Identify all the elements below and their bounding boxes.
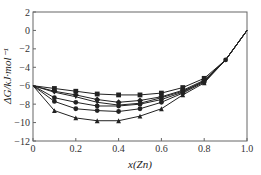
x-tick-label: 0.2 [70, 143, 83, 154]
y-tick-label: −2 [19, 43, 30, 54]
circle-marker [73, 106, 78, 111]
series-line [33, 30, 247, 102]
square-marker [116, 93, 121, 98]
y-tick-label: 2 [25, 7, 30, 18]
y-tick-label: −6 [19, 80, 30, 91]
gibbs-energy-chart: 20−2−4−6−8−10−12 00.20.40.60.81.0 x(Zn) … [0, 0, 261, 175]
y-axis-label: ΔG/kJ·mol⁻¹ [1, 48, 13, 105]
y-tick-label: −10 [14, 117, 30, 128]
x-tick-label: 0 [31, 143, 36, 154]
y-tick-label: −12 [14, 136, 30, 147]
circle-marker [159, 100, 164, 105]
y-tick-label: 0 [25, 25, 30, 36]
series-line [33, 30, 247, 95]
x-tick-label: 0.6 [155, 143, 168, 154]
square-marker [95, 92, 100, 97]
circle-marker [138, 106, 143, 111]
circle-marker [73, 100, 78, 105]
y-tick-label: −8 [19, 99, 30, 110]
x-tick-label: 0.4 [112, 143, 125, 154]
y-tick-label: −4 [19, 62, 30, 73]
series-square [33, 30, 247, 97]
circle-marker [116, 104, 121, 109]
circle-marker [95, 108, 100, 113]
data-series [33, 30, 247, 123]
square-marker [138, 93, 143, 98]
circle-marker [52, 99, 57, 104]
plot-frame [33, 12, 247, 141]
circle-marker [116, 109, 121, 114]
x-axis-ticks: 00.20.40.60.81.0 [31, 138, 254, 154]
x-axis-label: x(Zn) [127, 158, 152, 171]
shared-marker [223, 58, 228, 63]
x-tick-label: 0.8 [198, 143, 211, 154]
circle-marker [138, 102, 143, 107]
x-tick-label: 1.0 [241, 143, 254, 154]
circle-marker [95, 104, 100, 109]
